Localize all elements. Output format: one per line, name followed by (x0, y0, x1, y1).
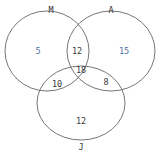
region-m-j: 10 (52, 79, 62, 89)
set-label-j: J (78, 142, 83, 152)
venn-diagram: M A J 5 12 15 18 10 8 12 (0, 0, 164, 156)
region-a-only: 15 (119, 46, 129, 56)
region-m-a-j: 18 (76, 65, 86, 75)
region-m-only: 5 (35, 46, 40, 56)
venn-circles (0, 0, 164, 156)
region-m-a: 12 (72, 46, 82, 56)
region-a-j: 8 (103, 77, 108, 87)
set-label-m: M (48, 5, 53, 15)
circle-j (37, 66, 125, 140)
set-label-a: A (108, 5, 113, 15)
region-j-only: 12 (76, 116, 86, 126)
